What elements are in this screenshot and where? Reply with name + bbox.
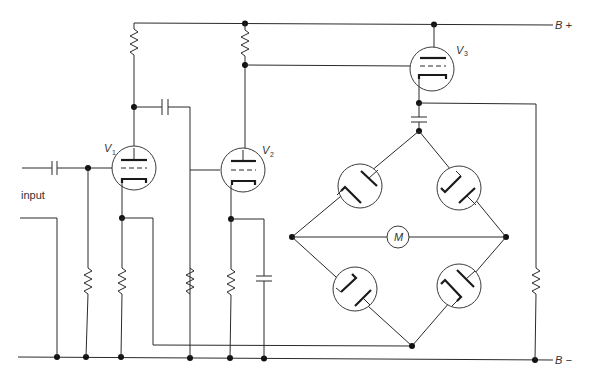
v1-subscript: 1	[112, 149, 116, 156]
b-minus-label: B −	[555, 354, 572, 366]
v2-subscript: 2	[270, 151, 274, 158]
diode-bottom-right	[437, 264, 481, 308]
input-label: input	[21, 189, 45, 201]
input-capacitor	[22, 161, 91, 175]
b-plus-label: B +	[555, 19, 572, 31]
v1-grid-resistor	[84, 168, 92, 357]
tube-v2	[221, 148, 265, 219]
v2-cathode-resistor	[227, 216, 235, 358]
bridge-coupling-capacitor	[411, 103, 427, 134]
circuit-schematic: V 1 input	[0, 0, 593, 379]
v2-plate-resistor	[241, 23, 411, 150]
b-plus-rail	[134, 21, 553, 28]
diode-top-left	[337, 164, 382, 208]
v1-plate-resistor	[130, 23, 138, 148]
diode-top-right	[437, 166, 481, 210]
meter-label: M	[394, 231, 404, 243]
v3-cathode-resistor	[416, 100, 540, 360]
v2-bypass-capacitor	[231, 219, 272, 358]
tube-v3	[410, 24, 454, 103]
input-ground-line	[20, 218, 57, 357]
v3-subscript: 3	[464, 50, 468, 57]
tube-v1	[88, 146, 156, 218]
b-minus-rail	[18, 354, 553, 363]
diode-bottom-left	[333, 267, 377, 311]
coupling-capacitor-v1-v2	[134, 99, 220, 358]
